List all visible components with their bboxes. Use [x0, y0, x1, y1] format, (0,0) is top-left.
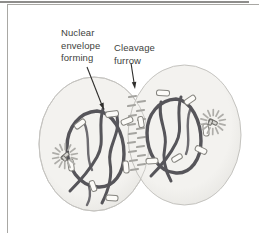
nuclear-envelope-fragment — [105, 110, 119, 117]
figure-panel: Nuclear envelope forming Cleavage furrow — [0, 0, 259, 233]
nuclear-envelope-label: Nuclear envelope forming — [61, 27, 100, 65]
label-line: forming — [61, 52, 100, 65]
label-line: envelope — [61, 40, 100, 53]
right-daughter-cell — [128, 65, 241, 205]
label-line: furrow — [114, 55, 155, 68]
nuclear-envelope-fragment — [123, 161, 130, 174]
nuclear-envelope-fragment — [156, 90, 169, 96]
nuclear-envelope-fragment — [146, 158, 158, 165]
label-line: Cleavage — [114, 42, 155, 55]
cleavage-furrow-label: Cleavage furrow — [114, 42, 155, 67]
nuclear-envelope-fragment — [106, 195, 118, 201]
telophase-cytokinesis-diagram — [0, 0, 259, 233]
label-line: Nuclear — [61, 27, 100, 40]
